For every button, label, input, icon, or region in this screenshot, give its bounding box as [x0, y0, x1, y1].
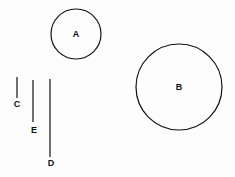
- label-e: E: [31, 125, 37, 135]
- label-c: C: [14, 99, 21, 109]
- label-d: D: [48, 158, 55, 168]
- diagram-canvas: [0, 0, 235, 177]
- label-b: B: [176, 82, 183, 92]
- label-a: A: [73, 29, 80, 39]
